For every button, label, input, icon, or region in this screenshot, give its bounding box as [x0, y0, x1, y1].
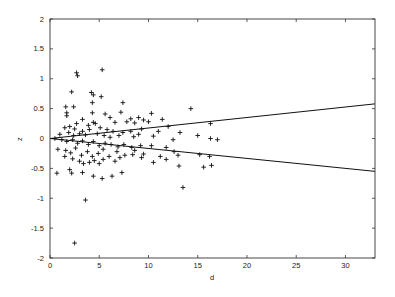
y-tick-label: -2 — [37, 254, 44, 263]
x-axis-label: d — [210, 273, 214, 282]
x-tick-label: 20 — [243, 261, 251, 270]
x-tick-label: 10 — [144, 261, 152, 270]
y-tick-label: 1 — [40, 74, 44, 83]
x-tick-label: 5 — [97, 261, 101, 270]
x-tick-label: 0 — [48, 261, 52, 270]
x-tick-label: 30 — [341, 261, 349, 270]
x-tick-label: 15 — [194, 261, 202, 270]
y-tick-label: 0 — [40, 134, 44, 143]
y-axis-label: z — [15, 137, 24, 141]
scatter-chart: 051015202530-2-1.5-1-0.500.511.52 d z — [0, 0, 395, 297]
y-tick-label: 2 — [40, 15, 44, 24]
y-tick-label: -1 — [37, 194, 44, 203]
y-tick-label: 0.5 — [34, 104, 44, 113]
y-tick-label: -0.5 — [31, 164, 44, 173]
y-tick-label: 1.5 — [34, 44, 44, 53]
y-tick-label: -1.5 — [31, 224, 44, 233]
chart-background — [0, 0, 395, 297]
x-tick-label: 25 — [292, 261, 300, 270]
